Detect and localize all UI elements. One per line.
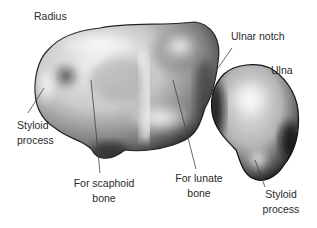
- label-lunate-line1: For lunate: [173, 171, 225, 186]
- leader-ulnar-notch: [218, 48, 232, 68]
- label-for-lunate-bone: For lunate bone: [173, 171, 225, 201]
- label-for-scaphoid-bone: For scaphoid bone: [73, 176, 135, 206]
- label-lunate-line2: bone: [173, 186, 225, 201]
- label-ulna-styloid-process: Styloid process: [262, 187, 300, 217]
- label-radius-styloid-line1: Styloid: [17, 118, 54, 133]
- label-radius-styloid-process: Styloid process: [17, 118, 54, 148]
- label-scaphoid-line2: bone: [73, 191, 135, 206]
- anatomy-figure: Radius Ulnar notch Ulna Styloid process …: [0, 0, 317, 228]
- label-ulna: Ulna: [271, 63, 293, 78]
- label-radius: Radius: [34, 9, 67, 24]
- label-radius-styloid-line2: process: [17, 133, 54, 148]
- label-ulna-styloid-line1: Styloid: [262, 187, 300, 202]
- label-ulna-styloid-line2: process: [262, 202, 300, 217]
- label-ulnar-notch: Ulnar notch: [231, 29, 285, 44]
- label-scaphoid-line1: For scaphoid: [73, 176, 135, 191]
